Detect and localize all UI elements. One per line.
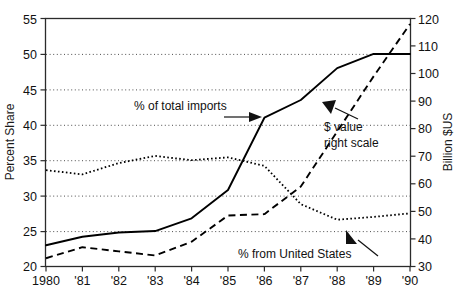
left-tick-label: 45: [23, 84, 37, 98]
right-tick-label: 40: [418, 233, 432, 247]
x-tick-label: '90: [402, 274, 418, 288]
right-tick-label: 70: [418, 150, 432, 164]
right-tick-label: 30: [418, 260, 432, 274]
annotation-label-line1: $ value: [324, 120, 363, 134]
left-tick-label: 35: [23, 154, 37, 168]
x-tick-label: '84: [183, 274, 199, 288]
x-tick-label: '88: [329, 274, 345, 288]
x-tick-label: '82: [111, 274, 127, 288]
chart-background: [0, 0, 460, 302]
x-tick-label: 1980: [32, 274, 60, 288]
right-tick-label: 50: [418, 205, 432, 219]
right-tick-label: 120: [418, 13, 439, 27]
left-tick-label: 30: [23, 190, 37, 204]
chart-figure: 20 25 30 35 40 45 50 55 Percent Share 30…: [0, 0, 460, 302]
right-tick-label: 60: [418, 177, 432, 191]
x-tick-label: '87: [293, 274, 309, 288]
left-tick-label: 20: [23, 260, 37, 274]
right-tick-label: 110: [418, 40, 438, 54]
annotation-label: % from United States: [238, 247, 351, 261]
x-tick-label: '85: [220, 274, 236, 288]
left-axis-title: Percent Share: [3, 103, 17, 180]
x-tick-label: '83: [147, 274, 163, 288]
left-tick-label: 50: [23, 48, 37, 62]
annotation-label-line2: right scale: [324, 136, 379, 150]
annotation-label: % of total imports: [134, 99, 227, 113]
right-axis-title: Billion $US: [441, 113, 455, 172]
x-tick-label: '86: [256, 274, 272, 288]
x-tick-label: '81: [74, 274, 90, 288]
right-tick-label: 100: [418, 67, 439, 81]
right-tick-label: 80: [418, 122, 432, 136]
left-tick-label: 55: [23, 13, 37, 27]
left-tick-label: 25: [23, 225, 37, 239]
x-tick-label: '89: [365, 274, 381, 288]
left-tick-label: 40: [23, 119, 37, 133]
right-tick-label: 90: [418, 95, 432, 109]
